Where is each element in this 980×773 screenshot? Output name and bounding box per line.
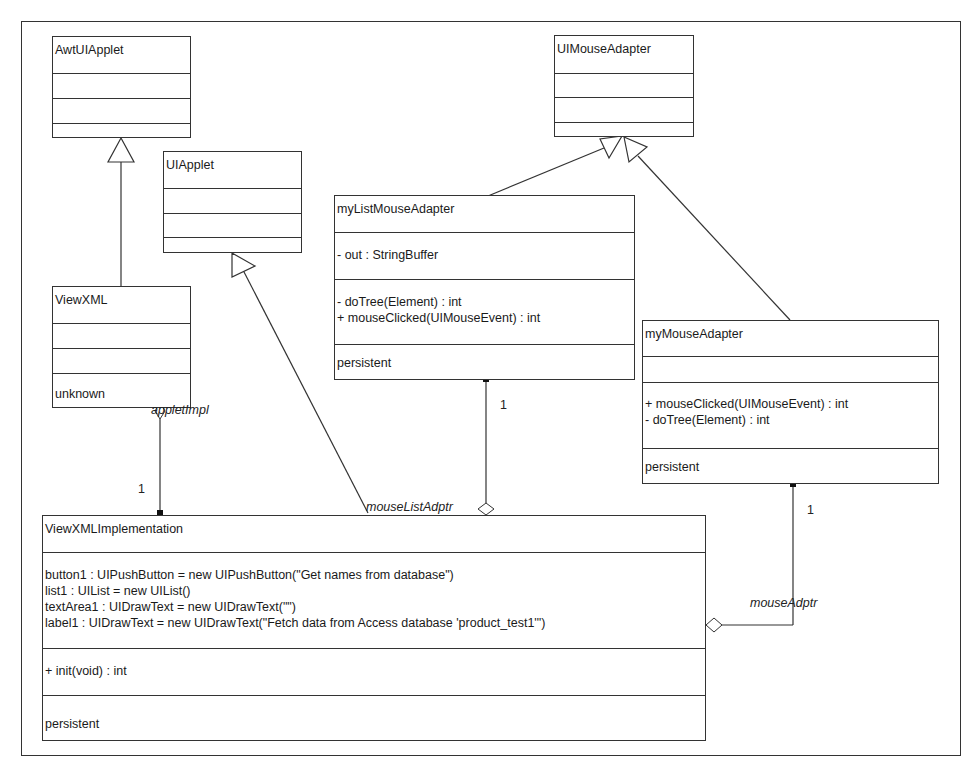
- attribute: label1 : UIDrawText = new UIDrawText("Fe…: [45, 615, 703, 631]
- footer-compartment: [555, 123, 693, 136]
- footer-compartment: [53, 124, 190, 137]
- multiplicity-mouselistadptr: 1: [500, 398, 507, 412]
- operations-compartment: + init(void) : int: [43, 649, 705, 696]
- operation: + init(void) : int: [45, 663, 703, 679]
- attributes-compartment: [53, 74, 190, 99]
- multiplicity-mouseadptr: 1: [807, 503, 814, 517]
- class-viewxml[interactable]: ViewXML unknown: [52, 286, 191, 408]
- attributes-compartment: [53, 324, 190, 349]
- operations-compartment: [53, 349, 190, 374]
- footer-compartment: [164, 238, 301, 252]
- multiplicity-appletimpl: 1: [138, 482, 145, 496]
- role-label-mouselistadptr: mouseListAdptr: [366, 500, 453, 514]
- footer-compartment: persistent: [335, 345, 634, 379]
- association-appletimpl: [155, 403, 165, 516]
- class-viewxmlimplementation[interactable]: ViewXMLImplementation button1 : UIPushBu…: [42, 515, 706, 741]
- class-name: AwtUIApplet: [53, 37, 190, 74]
- class-uiapplet[interactable]: UIApplet: [163, 151, 302, 253]
- operations-compartment: [555, 98, 693, 123]
- role-label-mouseadptr: mouseAdptr: [750, 596, 817, 610]
- role-label-appletimpl: appletImpl: [151, 403, 209, 417]
- generalization-viewxml-awtuiapplet: [108, 138, 134, 286]
- operations-compartment: - doTree(Element) : int + mouseClicked(U…: [335, 280, 634, 345]
- generalization-mymouse-uimouseadapter: [624, 137, 790, 320]
- class-name: UIMouseAdapter: [555, 36, 693, 74]
- class-mymouseadapter[interactable]: myMouseAdapter + mouseClicked(UIMouseEve…: [642, 320, 939, 484]
- class-name: ViewXML: [53, 287, 190, 324]
- operations-compartment: + mouseClicked(UIMouseEvent) : int - doT…: [643, 383, 938, 449]
- attribute: textArea1 : UIDrawText = new UIDrawText(…: [45, 599, 703, 615]
- uml-class-diagram: AwtUIApplet UIMouseAdapter UIApplet myLi…: [0, 0, 980, 773]
- attribute: button1 : UIPushButton = new UIPushButto…: [45, 567, 703, 583]
- class-uimouseadapter[interactable]: UIMouseAdapter: [554, 35, 694, 137]
- operation: + mouseClicked(UIMouseEvent) : int: [645, 396, 936, 412]
- attribute: list1 : UIList = new UIList(): [45, 583, 703, 599]
- generalization-mylist-uimouseadapter: [488, 136, 622, 196]
- class-name: ViewXMLImplementation: [43, 516, 705, 553]
- footer-compartment: persistent: [643, 449, 938, 483]
- operations-compartment: [164, 214, 301, 238]
- attributes-compartment: [164, 189, 301, 214]
- class-name: myMouseAdapter: [643, 321, 938, 357]
- attributes-compartment: [555, 74, 693, 98]
- attributes-compartment: button1 : UIPushButton = new UIPushButto…: [43, 553, 705, 649]
- operation: - doTree(Element) : int: [645, 412, 936, 428]
- class-mylistmouseadapter[interactable]: myListMouseAdapter - out : StringBuffer …: [334, 195, 635, 380]
- operations-compartment: [53, 99, 190, 124]
- class-name: myListMouseAdapter: [335, 196, 634, 233]
- association-mouselistadptr: [478, 376, 494, 515]
- operation: + mouseClicked(UIMouseEvent) : int: [337, 310, 632, 326]
- operation: - doTree(Element) : int: [337, 294, 632, 310]
- attributes-compartment: [643, 357, 938, 383]
- attribute: - out : StringBuffer: [337, 247, 632, 263]
- class-awtuiapplet[interactable]: AwtUIApplet: [52, 36, 191, 138]
- class-name: UIApplet: [164, 152, 301, 189]
- footer-compartment: persistent: [43, 696, 705, 740]
- attributes-compartment: - out : StringBuffer: [335, 233, 634, 280]
